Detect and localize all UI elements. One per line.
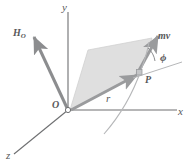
origin-marker bbox=[65, 107, 70, 112]
angular-momentum-vector bbox=[34, 37, 68, 110]
z-axis bbox=[14, 110, 68, 154]
angular-momentum-figure: y x z HO mv O P r ϕ bbox=[0, 0, 192, 166]
point-p-marker bbox=[137, 70, 143, 76]
diagram-canvas bbox=[0, 0, 192, 166]
